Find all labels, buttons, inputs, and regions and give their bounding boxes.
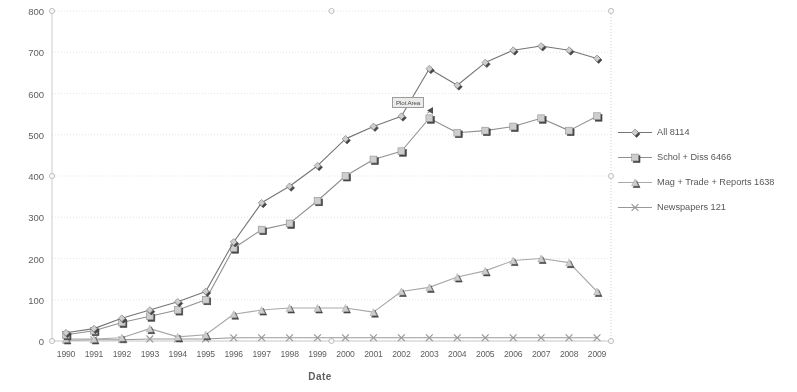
x-axis-tick-label: 2003 <box>420 349 438 359</box>
x-axis-tick-label: 1994 <box>169 349 187 359</box>
legend-item-label: Newspapers 121 <box>657 203 726 212</box>
legend-item[interactable]: Newspapers 121 <box>618 195 796 220</box>
selection-handle[interactable] <box>329 338 334 343</box>
selection-handle[interactable] <box>49 8 54 13</box>
selection-handle[interactable] <box>608 8 613 13</box>
data-point[interactable] <box>258 226 265 233</box>
data-point[interactable] <box>454 129 461 136</box>
legend-marker-triangle-icon <box>618 177 652 188</box>
data-point[interactable] <box>202 296 209 303</box>
legend-item-label: Schol + Diss 6466 <box>657 153 731 162</box>
x-axis-tick-label: 2001 <box>364 349 382 359</box>
x-axis-tick-label: 1993 <box>141 349 159 359</box>
line-chart: Quantity 8007006005004003002001000 19901… <box>0 0 797 392</box>
series-line <box>66 46 597 333</box>
legend-item[interactable]: All 8114 <box>618 120 796 145</box>
x-axis-tick-label: 2004 <box>448 349 466 359</box>
data-point[interactable] <box>174 307 181 314</box>
selection-handle[interactable] <box>608 338 613 343</box>
selection-handle[interactable] <box>49 173 54 178</box>
data-point[interactable] <box>482 127 489 134</box>
x-axis-tick-label: 1990 <box>57 349 75 359</box>
legend-item-label: Mag + Trade + Reports 1638 <box>657 178 774 187</box>
legend-item[interactable]: Schol + Diss 6466 <box>618 145 796 170</box>
series-line <box>66 116 597 335</box>
legend-marker-square-icon <box>618 152 652 163</box>
data-point[interactable] <box>594 113 601 120</box>
legend-marker-cross-icon <box>618 202 652 213</box>
selection-handle[interactable] <box>49 338 54 343</box>
data-point[interactable] <box>314 197 321 204</box>
legend-item[interactable]: Mag + Trade + Reports 1638 <box>618 170 796 195</box>
data-point[interactable] <box>398 148 405 155</box>
legend-item-label: All 8114 <box>657 128 690 137</box>
x-axis-tick-label: 1997 <box>252 349 270 359</box>
plot-area-tooltip: Plot Area <box>392 97 424 108</box>
selection-handle[interactable] <box>608 173 613 178</box>
data-point[interactable] <box>342 173 349 180</box>
series-triangle <box>63 255 602 344</box>
x-axis-tick-label: 1999 <box>308 349 326 359</box>
series-square <box>63 113 602 340</box>
x-axis-title: Date <box>0 371 640 382</box>
x-axis-tick-label: 2009 <box>588 349 606 359</box>
data-point[interactable] <box>286 220 293 227</box>
data-point[interactable] <box>370 156 377 163</box>
x-axis-tick-label: 2005 <box>476 349 494 359</box>
data-point[interactable] <box>632 154 639 161</box>
x-axis-tick-label: 1995 <box>197 349 215 359</box>
x-axis-tick-label: 1992 <box>113 349 131 359</box>
data-point[interactable] <box>566 127 573 134</box>
series-diamond <box>63 43 602 338</box>
data-point[interactable] <box>510 123 517 130</box>
data-point[interactable] <box>538 115 545 122</box>
x-axis-tick-label: 1991 <box>85 349 103 359</box>
x-axis-tick-label: 2000 <box>336 349 354 359</box>
selection-handle[interactable] <box>329 8 334 13</box>
series-line <box>66 259 597 339</box>
legend-marker-diamond-icon <box>618 127 652 138</box>
x-axis-tick-label: 2006 <box>504 349 522 359</box>
x-axis-tick-label: 1998 <box>280 349 298 359</box>
x-axis-tick-label: 2002 <box>392 349 410 359</box>
x-axis-tick-label: 2008 <box>560 349 578 359</box>
x-axis-tick-label: 2007 <box>532 349 550 359</box>
data-point[interactable] <box>426 115 433 122</box>
chart-legend: All 8114Schol + Diss 6466Mag + Trade + R… <box>618 120 796 220</box>
x-axis-tick-label: 1996 <box>225 349 243 359</box>
